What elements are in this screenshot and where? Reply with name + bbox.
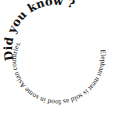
spiral-body-path: Elephant meat is sold as food in some As… [10,39,107,106]
spiral-text-graphic: Did you know ? Elephant meat is sold as … [0,0,113,114]
spiral-svg: Did you know ? Elephant meat is sold as … [0,0,113,114]
spiral-body: Elephant meat is sold as food in some As… [10,39,107,106]
